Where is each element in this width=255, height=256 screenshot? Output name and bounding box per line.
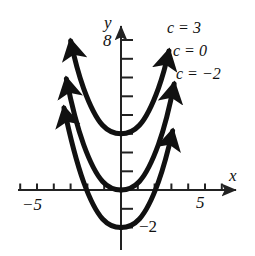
- parabola-c-minus-2: [64, 108, 173, 228]
- y-tick-label-8: 8: [103, 32, 112, 49]
- graph-canvas: [0, 0, 255, 256]
- parabola-c-minus-2-right-branch: [121, 131, 173, 228]
- parabola-c-3-right-branch: [121, 51, 169, 134]
- parabola-c-0-right-branch: [121, 84, 174, 190]
- x-axis-label: x: [229, 167, 237, 184]
- y-axis-label: y: [104, 14, 112, 31]
- curve-label-c-0: c = 0: [173, 43, 207, 59]
- y-axis-group: [121, 26, 133, 250]
- curve-label-c-3: c = 3: [167, 20, 201, 36]
- parabola-family-figure: y x 8 −5 5 −2 c = 3 c = 0 c = −2: [0, 0, 255, 256]
- parabola-c-3: [71, 41, 169, 134]
- x-tick-label-5: 5: [196, 194, 205, 211]
- y-tick-label-minus-2: −2: [139, 218, 157, 235]
- curve-label-c-minus-2: c = −2: [176, 66, 221, 82]
- x-tick-label-minus-5: −5: [22, 196, 42, 213]
